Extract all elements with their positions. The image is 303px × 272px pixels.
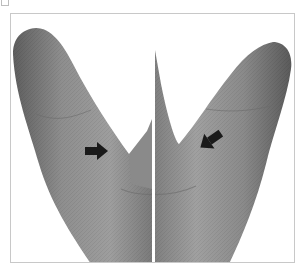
image-frame	[10, 13, 295, 263]
left-web-shape	[129, 119, 152, 189]
image-divider	[152, 14, 155, 263]
panel-label-mark	[1, 0, 9, 6]
